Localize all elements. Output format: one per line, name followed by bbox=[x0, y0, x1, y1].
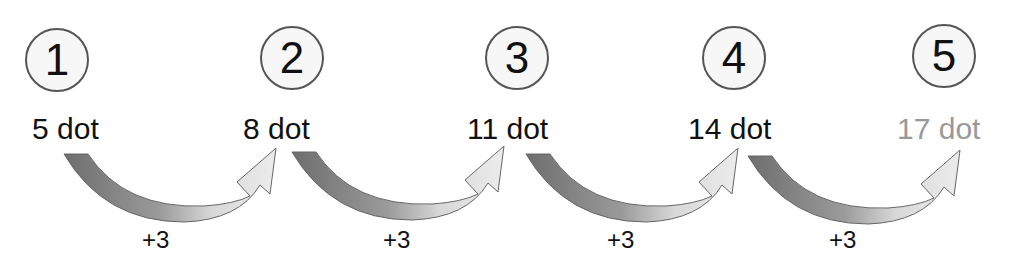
step-4-circle: 4 bbox=[702, 26, 766, 90]
increment-2: +3 bbox=[383, 226, 410, 254]
step-4-label: 14 dot bbox=[688, 112, 771, 146]
increment-4: +3 bbox=[829, 226, 856, 254]
arrow-3-to-4 bbox=[526, 148, 738, 222]
step-2-circle: 2 bbox=[260, 26, 324, 90]
arrow-2-to-3 bbox=[292, 146, 504, 220]
increment-3: +3 bbox=[607, 226, 634, 254]
step-3-label: 11 dot bbox=[467, 112, 548, 146]
step-1-circle: 1 bbox=[25, 28, 89, 92]
step-1-label: 5 dot bbox=[32, 112, 99, 146]
step-3-circle: 3 bbox=[485, 26, 549, 90]
step-5-circle: 5 bbox=[912, 24, 976, 88]
arrow-4-to-5 bbox=[748, 150, 960, 224]
increment-1: +3 bbox=[142, 226, 169, 254]
step-2-label: 8 dot bbox=[243, 112, 310, 146]
step-5-label: 17 dot bbox=[897, 112, 980, 146]
arrow-1-to-2 bbox=[64, 148, 276, 222]
